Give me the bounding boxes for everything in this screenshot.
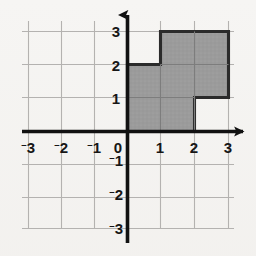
x-axis-label-3: 3	[224, 140, 232, 155]
coordinate-grid-figure: ⁻3 ⁻2 ⁻1 0 1 2 3 3 2 1 ⁻1 ⁻2 ⁻3	[0, 0, 256, 256]
shaded-region-fill	[128, 32, 229, 132]
y-axis-label-2: 2	[112, 58, 120, 73]
x-axis-label-neg3: ⁻3	[21, 140, 35, 155]
x-axis-label-neg1: ⁻1	[87, 140, 101, 155]
y-axis-label-neg3: ⁻3	[109, 221, 123, 236]
coordinate-plane-svg	[0, 0, 256, 256]
x-axis-label-neg2: ⁻2	[54, 140, 68, 155]
y-axis-label-3: 3	[112, 24, 120, 39]
y-axis-label-neg2: ⁻2	[109, 187, 123, 202]
x-axis-label-2: 2	[190, 140, 198, 155]
x-axis-label-1: 1	[156, 140, 164, 155]
y-axis-label-1: 1	[112, 91, 120, 106]
shaded-polyomino	[128, 32, 229, 132]
y-axis-label-neg1: ⁻1	[109, 153, 123, 168]
